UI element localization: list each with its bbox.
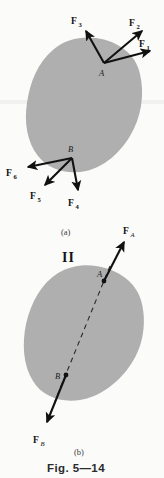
panel-b: II A B F A F B [24, 226, 144, 457]
force-label-f4: F 4 [68, 198, 80, 210]
force-label-f6: F 6 [6, 168, 18, 180]
force-label-f3-base: F [71, 16, 77, 26]
rigid-body-shape-b [24, 265, 144, 400]
figure-caption: Fig. 5—14 [47, 462, 105, 474]
force-label-f6-sub: 6 [14, 173, 18, 180]
point-label-b-lower: B [55, 371, 60, 381]
force-label-fb-sub: B [41, 440, 45, 447]
physics-figure: A B F 1 F 2 F 3 F 4 F 5 [0, 0, 164, 478]
force-label-f5-sub: 5 [38, 196, 42, 203]
force-label-f3: F 3 [71, 16, 83, 28]
application-point-b-dot [64, 373, 69, 378]
force-label-fa-sub: A [130, 231, 136, 238]
force-label-f1: F 1 [139, 39, 150, 51]
force-label-fa: F A [123, 226, 136, 238]
force-label-f3-sub: 3 [79, 21, 83, 28]
force-label-f2: F 2 [129, 18, 141, 30]
panel-label-a: (a) [61, 227, 71, 237]
force-label-f1-base: F [139, 39, 145, 49]
figure-page: A B F 1 F 2 F 3 F 4 F 5 [0, 0, 164, 478]
force-label-f2-base: F [129, 18, 135, 28]
roman-numeral-two: II [62, 250, 75, 265]
force-label-f1-sub: 1 [147, 44, 150, 51]
force-label-fb: F B [33, 435, 45, 447]
force-label-f2-sub: 2 [137, 23, 141, 30]
point-label-b-upper: B [68, 144, 73, 154]
force-label-fa-base: F [123, 226, 129, 236]
force-label-f5-base: F [30, 191, 36, 201]
panel-a: A B F 1 F 2 F 3 F 4 F 5 [6, 16, 150, 237]
force-label-f4-sub: 4 [76, 203, 80, 210]
force-label-fb-base: F [33, 435, 39, 445]
point-label-a-upper: A [98, 68, 105, 78]
application-point-a-dot [102, 279, 107, 284]
force-label-f4-base: F [68, 198, 74, 208]
panel-label-b: (b) [74, 447, 84, 457]
force-label-f6-base: F [6, 168, 12, 178]
point-label-a-lower: A [96, 269, 103, 279]
force-label-f5: F 5 [30, 191, 42, 203]
